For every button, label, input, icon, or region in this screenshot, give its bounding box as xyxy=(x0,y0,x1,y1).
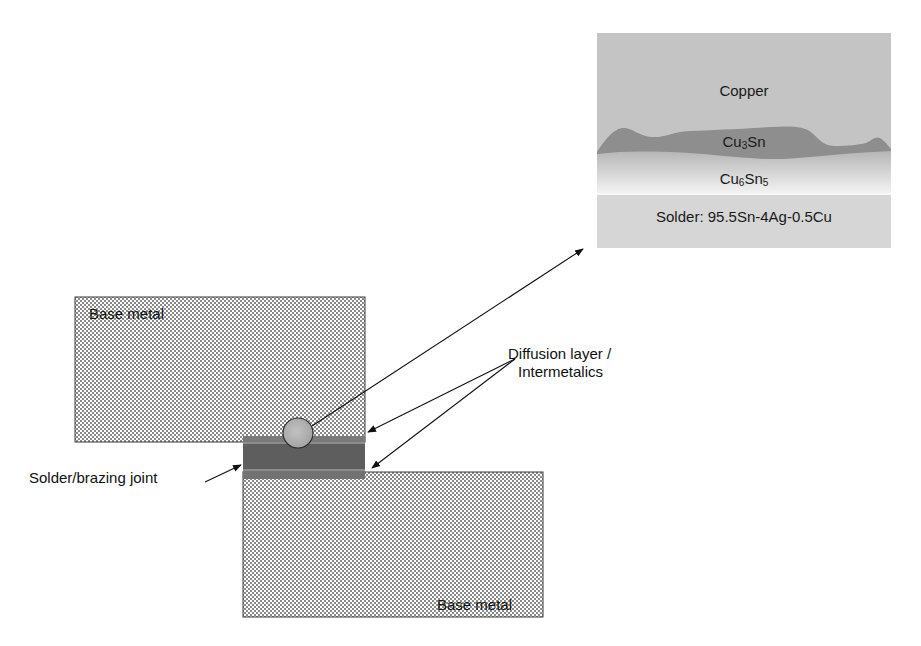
joint-label: Solder/brazing joint xyxy=(29,469,157,486)
joint-arrow xyxy=(205,465,241,482)
interface-line xyxy=(597,193,891,195)
copper-label: Copper xyxy=(597,82,891,99)
cu6sn5-label: Cu6Sn5 xyxy=(597,170,891,187)
solder-composition-label: Solder: 95.5Sn-4Ag-0.5Cu xyxy=(597,208,891,225)
base-metal-bottom-label: Base metal xyxy=(437,596,512,613)
base-metal-top-label: Base metal xyxy=(89,305,164,322)
diffusion-arrow-top xyxy=(368,359,515,432)
diffusion-arrow-bottom xyxy=(372,359,515,468)
magnifier-circle xyxy=(283,418,313,448)
diffusion-label-line1: Diffusion layer / xyxy=(508,345,611,362)
cu3sn-label: Cu3Sn xyxy=(597,133,891,150)
diffusion-label-line2: Intermetalics xyxy=(518,363,603,380)
